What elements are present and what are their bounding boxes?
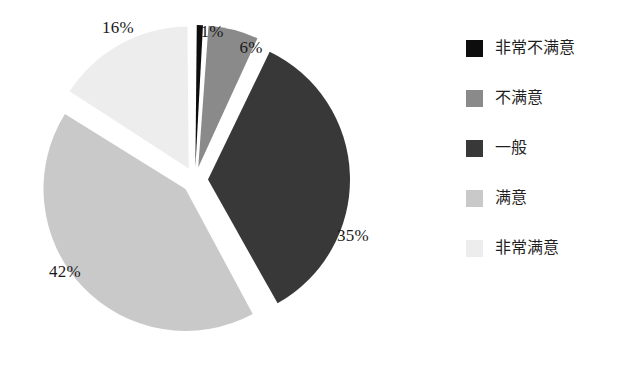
slice-label-satisfied: 42% xyxy=(49,262,81,282)
legend-item-satisfied: 满意 xyxy=(466,188,616,208)
legend-label: 非常不满意 xyxy=(495,39,575,57)
pie-chart-canvas xyxy=(0,0,430,367)
legend-item-neutral: 一般 xyxy=(466,138,616,158)
legend-item-very-satisfied: 非常满意 xyxy=(466,238,616,258)
chart-legend: 非常不满意 不满意 一般 满意 非常满意 xyxy=(466,38,616,288)
slice-label-very-dissatisfied: 1% xyxy=(200,22,223,42)
slice-label-neutral: 35% xyxy=(337,226,369,246)
legend-swatch-icon xyxy=(466,40,483,57)
legend-label: 不满意 xyxy=(495,89,543,107)
legend-item-very-dissatisfied: 非常不满意 xyxy=(466,38,616,58)
legend-item-dissatisfied: 不满意 xyxy=(466,88,616,108)
slice-label-very-satisfied: 16% xyxy=(102,18,134,38)
legend-label: 一般 xyxy=(495,139,527,157)
slice-label-dissatisfied: 6% xyxy=(239,38,262,58)
pie-slice xyxy=(44,114,253,331)
pie-slices-group xyxy=(44,25,350,331)
legend-swatch-icon xyxy=(466,240,483,257)
legend-swatch-icon xyxy=(466,190,483,207)
pie-chart-figure: 16% 1% 6% 35% 42% 非常不满意 不满意 一般 满意 非常满意 xyxy=(0,0,619,367)
legend-swatch-icon xyxy=(466,90,483,107)
legend-swatch-icon xyxy=(466,140,483,157)
legend-label: 非常满意 xyxy=(495,239,559,257)
legend-label: 满意 xyxy=(495,189,527,207)
